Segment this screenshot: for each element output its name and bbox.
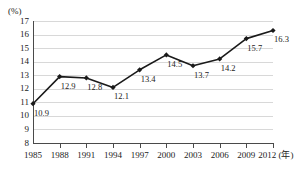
data-point-marker [270,28,275,33]
line-chart: (%) 171615141312111098 19851988199119941… [0,0,300,171]
data-point-marker [190,63,195,68]
series-polyline [33,30,273,103]
data-point-marker [84,75,89,80]
series-markers [30,28,275,106]
series-line [0,0,300,171]
